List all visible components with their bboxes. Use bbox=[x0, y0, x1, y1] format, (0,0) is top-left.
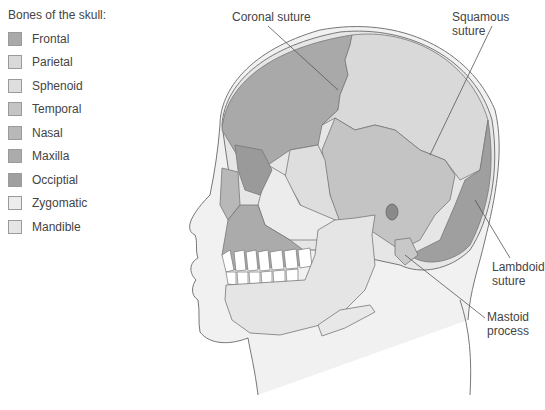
ear-canal bbox=[386, 204, 398, 220]
squamous-suture-label: Squamous suture bbox=[452, 10, 542, 38]
mastoid-process-label: Mastoid process bbox=[487, 310, 529, 338]
mastoid-line2: process bbox=[487, 324, 529, 338]
lambdoid-suture-label: Lambdoid suture bbox=[492, 260, 545, 288]
coronal-suture-label: Coronal suture bbox=[232, 10, 311, 24]
lambdoid-line2: suture bbox=[492, 274, 545, 288]
lambdoid-line1: Lambdoid bbox=[492, 260, 545, 274]
mastoid-line1: Mastoid bbox=[487, 310, 529, 324]
